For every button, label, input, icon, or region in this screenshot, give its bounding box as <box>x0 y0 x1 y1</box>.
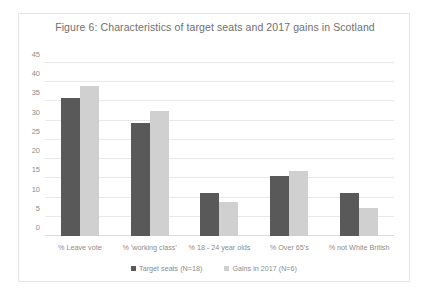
y-axis-tick-label: 0 <box>36 223 40 232</box>
bar-group <box>324 63 394 236</box>
plot-area: 454035302520151050 % Leave vote% 'workin… <box>45 63 394 236</box>
bar-series-container <box>45 63 394 236</box>
x-axis-tick-label: % not White British <box>324 243 394 252</box>
y-axis-tick-label: 15 <box>32 165 40 174</box>
x-axis-tick-label: % Leave vote <box>45 243 115 252</box>
legend-label: Gains in 2017 (N=6) <box>232 264 297 273</box>
chart-container: Figure 6: Characteristics of target seat… <box>18 13 410 282</box>
x-axis-labels: % Leave vote% 'working class'% 18 - 24 y… <box>45 243 394 252</box>
x-axis-tick-label: % 'working class' <box>115 243 185 252</box>
bar <box>80 86 99 236</box>
legend-item[interactable]: Gains in 2017 (N=6) <box>224 264 297 273</box>
x-axis-tick-label: % 18 - 24 year olds <box>185 243 255 252</box>
y-axis-tick-label: 30 <box>32 107 40 116</box>
y-axis-tick-label: 5 <box>36 203 40 212</box>
chart-legend: Target seats (N=18)Gains in 2017 (N=6) <box>19 264 409 273</box>
bar <box>359 208 378 236</box>
bar <box>219 202 238 236</box>
bar <box>61 98 80 236</box>
y-axis-tick-label: 20 <box>32 146 40 155</box>
y-axis-tick-label: 25 <box>32 126 40 135</box>
y-axis-tick-label: 40 <box>32 69 40 78</box>
y-axis-tick-label: 35 <box>32 88 40 97</box>
legend-swatch-icon <box>131 266 136 271</box>
bar <box>270 176 289 236</box>
x-axis-tick-label: % Over 65's <box>254 243 324 252</box>
bar-group <box>115 63 185 236</box>
bar-group <box>45 63 115 236</box>
bar <box>340 193 359 236</box>
chart-title: Figure 6: Characteristics of target seat… <box>47 20 383 34</box>
bar <box>200 193 219 236</box>
bar <box>150 111 169 236</box>
bar-group <box>254 63 324 236</box>
bar <box>131 123 150 236</box>
legend-label: Target seats (N=18) <box>139 264 202 273</box>
y-axis-tick-label: 45 <box>32 50 40 59</box>
y-axis-tick-label: 10 <box>32 184 40 193</box>
legend-swatch-icon <box>224 266 229 271</box>
bar-group <box>185 63 255 236</box>
legend-item[interactable]: Target seats (N=18) <box>131 264 202 273</box>
bar <box>289 171 308 236</box>
